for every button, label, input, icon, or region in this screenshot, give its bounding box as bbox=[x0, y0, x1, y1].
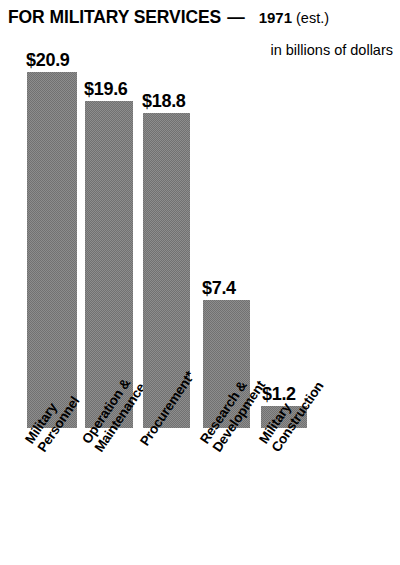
chart-page: FOR MILITARY SERVICES — 1971 (est.) in b… bbox=[0, 0, 400, 565]
plot-area: $20.9 Military Personnel $19.6 Operation… bbox=[0, 0, 400, 565]
bar-military-personnel bbox=[27, 72, 77, 428]
bar-value-label: $20.9 bbox=[26, 50, 70, 71]
bar-value-label: $19.6 bbox=[84, 79, 128, 100]
bar-value-label: $18.8 bbox=[142, 91, 186, 112]
bar-value-label: $7.4 bbox=[202, 278, 236, 299]
